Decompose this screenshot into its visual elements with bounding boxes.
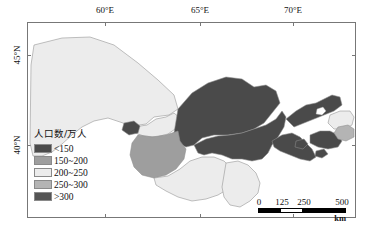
scale-bar: 0 125 250 500 km [258,197,352,213]
scale-seg-2 [281,209,303,212]
scale-tick-250: 250 [297,197,311,207]
population-map-figure: 60°E 65°E 70°E 45°N 40°N [0,0,369,243]
legend-item-gt300: >300 [34,191,116,202]
lat-label-40n: 40°N [12,135,22,154]
legend-swatch-gt300 [34,192,52,202]
region-tashkent [272,133,316,161]
legend-item-250-300: 250~300 [34,179,116,190]
legend-item-200-250: 200~250 [34,167,116,178]
lon-label-60e: 60°E [96,5,114,15]
legend-swatch-250-300 [34,180,52,190]
legend-swatch-150-200 [34,156,52,166]
region-islet-east-2 [315,149,328,158]
legend-label-lt150: <150 [54,144,74,154]
lon-label-70e: 70°E [284,5,302,15]
scale-tick-500: 500 [335,197,349,207]
scale-seg-1 [259,209,281,212]
legend-swatch-lt150 [34,144,52,154]
lon-label-65e: 65°E [191,5,209,15]
legend-swatch-200-250 [34,168,52,178]
legend-title: 人口数/万人 [34,128,116,140]
legend-item-150-200: 150~200 [34,155,116,166]
region-surkhandarya [222,161,260,207]
legend-label-150-200: 150~200 [54,156,88,166]
scale-bar-body: km [258,208,346,213]
legend-label-200-250: 200~250 [54,168,88,178]
scale-seg-3 [302,209,345,212]
legend: 人口数/万人 <150 150~200 200~250 250~300 >300 [34,128,116,203]
lat-label-45n: 45°N [12,45,22,64]
legend-label-gt300: >300 [54,192,74,202]
scale-tick-125: 125 [275,197,289,207]
legend-label-250-300: 250~300 [54,180,88,190]
scale-bar-ticks: 0 125 250 500 [258,197,352,208]
legend-item-lt150: <150 [34,143,116,154]
scale-tick-0: 0 [257,197,262,207]
scale-unit-label: km [334,213,346,223]
figure-caption [0,233,369,243]
